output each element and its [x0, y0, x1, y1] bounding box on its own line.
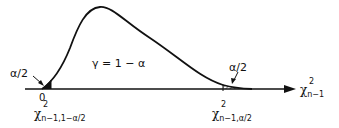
density-curve — [42, 7, 252, 89]
left-tail-label: α/2 — [10, 68, 28, 79]
right-tail-label: α/2 — [229, 62, 247, 73]
right-pointer-arrow-icon — [231, 78, 236, 84]
axis-arrow-icon — [284, 85, 296, 93]
left-critical-value-label: χn−1,1−α/2 — [34, 108, 86, 120]
subscript: n−1,α/2 — [219, 114, 251, 123]
right-critical-value-label: χn−1,α/2 — [212, 108, 252, 120]
left-critical-superscript: 2 — [43, 101, 48, 109]
right-critical-superscript: 2 — [221, 101, 226, 109]
axis-superscript: 2 — [309, 78, 314, 86]
curve-region-label: γ = 1 − α — [92, 58, 145, 69]
subscript: n−1,1−α/2 — [41, 114, 85, 123]
chi-square-diagram: α/2 γ = 1 − α α/2 0 χn−1,1−α/2 2 χn−1,α/… — [0, 0, 339, 128]
subscript: n−1 — [307, 90, 324, 99]
